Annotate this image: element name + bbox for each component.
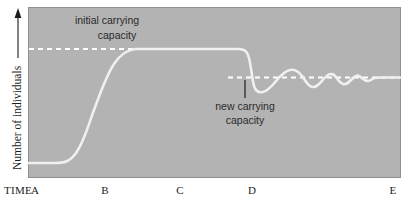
x-tick-label-e: E — [389, 184, 396, 196]
x-tick-label-c: C — [176, 184, 184, 196]
initial-carrying-capacity-line2: capacity — [98, 29, 137, 41]
chart-canvas: Number of individuals TIME A B C D E ini… — [0, 0, 413, 204]
plot-area-background — [29, 8, 401, 178]
new-carrying-capacity-line2: capacity — [226, 114, 265, 126]
population-growth-figure: Number of individuals TIME A B C D E ini… — [0, 0, 413, 204]
y-axis-label: Number of individuals — [11, 65, 23, 170]
x-tick-label-d: D — [248, 184, 256, 196]
x-tick-label-b: B — [101, 184, 109, 196]
x-axis-label: TIME — [4, 184, 32, 196]
up-arrow-icon — [15, 8, 22, 58]
x-tick-label-a: A — [31, 184, 39, 196]
new-carrying-capacity-line1: new carrying — [215, 100, 275, 112]
initial-carrying-capacity-line1: initial carrying — [75, 14, 139, 26]
